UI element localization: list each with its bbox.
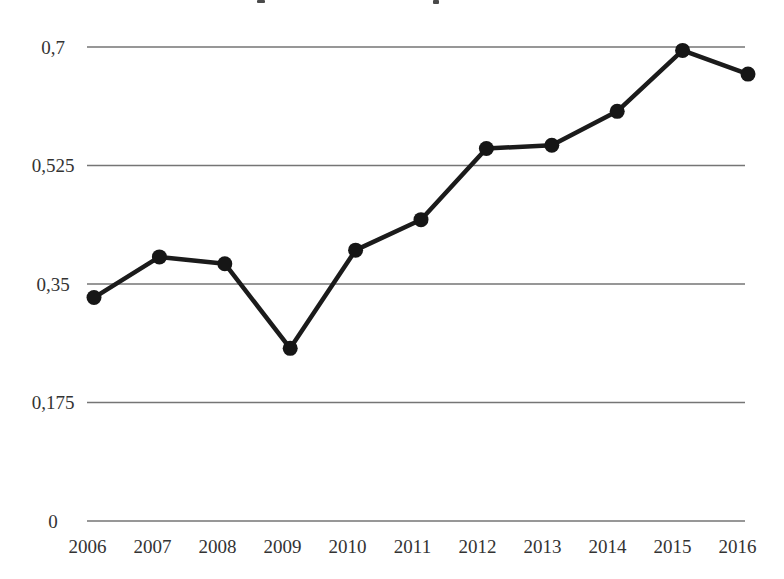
x-tick-label: 2016 — [719, 536, 757, 557]
data-point — [544, 138, 559, 153]
y-tick-label: 0 — [48, 511, 58, 532]
data-point — [152, 249, 167, 264]
data-point — [610, 104, 625, 119]
x-tick-label: 2009 — [264, 536, 302, 557]
x-tick-label: 2014 — [589, 536, 628, 557]
data-point — [479, 141, 494, 156]
x-tick-label: 2008 — [199, 536, 237, 557]
data-point — [283, 341, 298, 356]
y-tick-label: 0,35 — [36, 274, 69, 295]
data-point — [675, 43, 690, 58]
chart-figure: 00,1750,350,5250,72006200720082009201020… — [0, 0, 784, 579]
data-point — [87, 290, 102, 305]
x-tick-label: 2007 — [134, 536, 172, 557]
y-tick-label: 0,7 — [41, 37, 65, 58]
x-tick-label: 2011 — [394, 536, 431, 557]
data-point — [741, 67, 756, 82]
data-line — [94, 50, 748, 348]
data-point — [348, 243, 363, 258]
y-tick-label: 0,175 — [32, 392, 75, 413]
x-tick-label: 2013 — [524, 536, 562, 557]
x-tick-label: 2010 — [329, 536, 367, 557]
data-point — [414, 212, 429, 227]
y-tick-label: 0,525 — [32, 155, 75, 176]
data-point — [217, 256, 232, 271]
x-tick-label: 2006 — [69, 536, 107, 557]
line-chart: 00,1750,350,5250,72006200720082009201020… — [0, 0, 784, 579]
x-tick-label: 2012 — [459, 536, 497, 557]
x-tick-label: 2015 — [654, 536, 692, 557]
